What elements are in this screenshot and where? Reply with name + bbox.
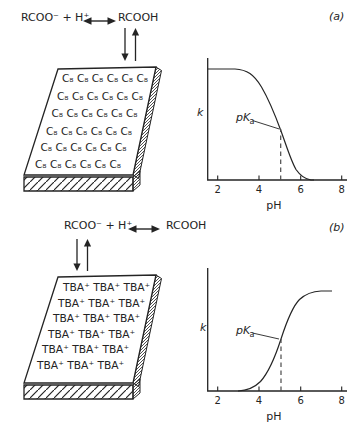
retention-curve-decreasing bbox=[208, 69, 314, 180]
tick-label: 6 bbox=[298, 184, 304, 195]
panel-b-label: (b) bbox=[329, 221, 345, 234]
equilibrium-a-right: RCOOH bbox=[118, 12, 158, 24]
double-arrow-icon bbox=[128, 224, 160, 234]
x-ticks bbox=[218, 387, 342, 392]
pka-pointer-line bbox=[253, 121, 280, 130]
equilibrium-b-left: RCOO⁻ + H⁺ bbox=[64, 220, 132, 232]
stationary-phase-slab-b: TBA⁺ TBA⁺ TBA⁺ TBA⁺ TBA⁺ TBA⁺ TBA⁺ TBA⁺ … bbox=[14, 270, 164, 402]
arrowhead-left bbox=[128, 225, 137, 232]
ion-row: TBA⁺ TBA⁺ TBA⁺ bbox=[62, 281, 150, 294]
down-arrowhead bbox=[121, 54, 128, 62]
graph-a-k-vs-ph: 2 4 6 8 pH k pK a bbox=[195, 55, 359, 215]
ion-row: TBA⁺ TBA⁺ TBA⁺ bbox=[57, 297, 145, 310]
arrowhead-right bbox=[152, 225, 161, 232]
ion-row: TBA⁺ TBA⁺ TBA⁺ bbox=[47, 328, 135, 341]
y-axis-label: k bbox=[197, 106, 204, 119]
tick-label: 4 bbox=[256, 184, 262, 195]
arrowhead-left bbox=[83, 17, 92, 24]
up-arrowhead bbox=[132, 28, 139, 36]
tick-label: 2 bbox=[215, 395, 221, 406]
ligand-row: C₈ C₈ C₈ C₈ C₈ C₈ bbox=[57, 90, 143, 102]
ion-row: TBA⁺ TBA⁺ TBA⁺ bbox=[41, 343, 129, 356]
ligand-row: C₈ C₈ C₈ C₈ C₈ C₈ bbox=[41, 141, 127, 153]
updown-arrows-icon bbox=[71, 239, 93, 271]
equilibrium-a-left: RCOO⁻ + H⁺ bbox=[21, 12, 89, 24]
retention-curve-increasing bbox=[238, 291, 332, 391]
axes bbox=[208, 268, 347, 391]
ligand-row: C₈ C₈ C₈ C₈ C₈ C₈ bbox=[62, 72, 148, 84]
x-ticks bbox=[218, 176, 342, 181]
ligand-row: C₈ C₈ C₈ C₈ C₈ C₈ bbox=[52, 107, 138, 119]
up-arrowhead bbox=[84, 239, 91, 247]
tick-label: 6 bbox=[298, 395, 304, 406]
support-base-hatched bbox=[24, 177, 133, 191]
pka-label-subscript: a bbox=[250, 330, 255, 339]
panel-a-label: (a) bbox=[329, 10, 344, 23]
x-axis-label: pH bbox=[266, 410, 281, 423]
double-arrow-icon bbox=[83, 16, 116, 26]
updown-arrows-icon bbox=[119, 28, 141, 61]
y-axis-label: k bbox=[200, 321, 207, 334]
x-axis-label: pH bbox=[266, 199, 281, 212]
figure-canvas: (a) RCOO⁻ + H⁺ RCOOH C₈ C₈ C₈ C₈ C₈ C₈ C… bbox=[0, 0, 359, 432]
support-base-hatched bbox=[24, 385, 133, 399]
ion-row: TBA⁺ TBA⁺ TBA⁺ bbox=[36, 359, 124, 372]
tick-label: 2 bbox=[215, 184, 221, 195]
axes bbox=[208, 58, 347, 180]
pka-pointer-line bbox=[253, 333, 280, 339]
arrowhead-right bbox=[108, 17, 117, 24]
ligand-row: C₈ C₈ C₈ C₈ C₈ C₈ bbox=[46, 125, 132, 137]
ion-row: TBA⁺ TBA⁺ TBA⁺ bbox=[52, 312, 140, 325]
tick-label: 8 bbox=[339, 395, 345, 406]
tick-label: 8 bbox=[339, 184, 345, 195]
tick-label: 4 bbox=[256, 395, 262, 406]
ligand-row: C₈ C₈ C₈ C₈ C₈ C₈ bbox=[35, 158, 121, 170]
equilibrium-b-right: RCOOH bbox=[166, 220, 206, 232]
pka-label-subscript: a bbox=[250, 117, 255, 126]
stationary-phase-slab-a: C₈ C₈ C₈ C₈ C₈ C₈ C₈ C₈ C₈ C₈ C₈ C₈ C₈ C… bbox=[14, 62, 164, 194]
graph-b-k-vs-ph: 2 4 6 8 pH k pK a bbox=[195, 262, 359, 424]
